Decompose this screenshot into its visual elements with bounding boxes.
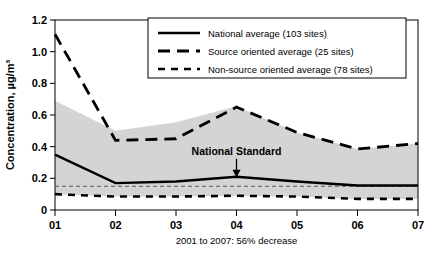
legend-label-2: Non-source oriented average (78 sites) [208,64,373,75]
y-tick-label: 0.6 [32,109,47,121]
legend: National average (103 sites)Source orien… [148,18,406,78]
chart-svg: 00.20.40.60.81.01.2 Concentration, µg/m³… [0,0,434,253]
legend-label-1: Source oriented average (25 sites) [208,46,354,57]
chart-figure: 00.20.40.60.81.01.2 Concentration, µg/m³… [0,0,434,253]
y-axis-title: Concentration, µg/m³ [4,60,16,171]
y-axis: 00.20.40.60.81.01.2 Concentration, µg/m³ [4,14,55,216]
y-tick-label: 1.0 [32,46,47,58]
x-tick-label: 04 [230,219,243,231]
y-tick-label: 0.8 [32,77,47,89]
y-tick-label: 1.2 [32,14,47,26]
y-tick-label: 0.2 [32,172,47,184]
x-axis: 01020304050607 2001 to 2007: 56% decreas… [49,210,424,246]
x-tick-label: 03 [170,219,182,231]
y-tick-label: 0.4 [32,141,48,153]
annotation-label: National Standard [192,145,282,157]
y-tick-label: 0 [41,204,47,216]
x-tick-label: 05 [291,219,303,231]
x-tick-label: 01 [49,219,61,231]
x-tick-label: 07 [412,219,424,231]
x-tick-label: 02 [109,219,121,231]
x-tick-label: 06 [351,219,363,231]
legend-label-0: National average (103 sites) [208,28,327,39]
x-axis-caption: 2001 to 2007: 56% decrease [176,235,297,246]
